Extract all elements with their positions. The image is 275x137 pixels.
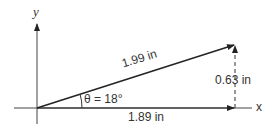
y-axis-label: y [33,4,39,20]
x-axis-label: x [256,100,262,114]
angle-arc [80,94,82,108]
angle-label: θ = 18° [84,92,123,106]
horizontal-component-label: 1.89 in [128,110,164,124]
vector-diagram: y x 1.99 in 0.63 in 1.89 in θ = 18° [0,0,275,137]
vertical-component-label: 0.63 in [215,73,251,87]
